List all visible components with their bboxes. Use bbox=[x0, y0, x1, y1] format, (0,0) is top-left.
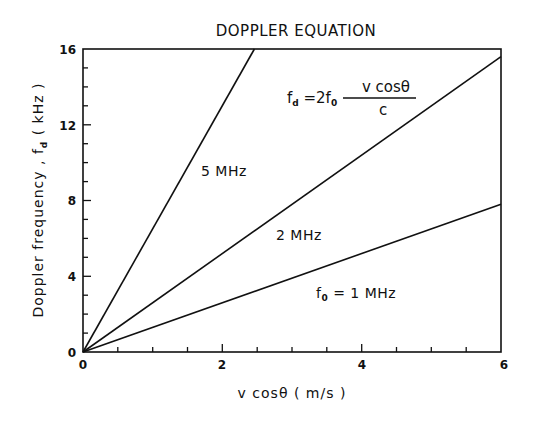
y-axis-title-main: Doppler frequency , f bbox=[30, 148, 46, 317]
label-5mhz: 5 MHz bbox=[201, 163, 247, 179]
x-tick-0: 0 bbox=[79, 358, 87, 372]
equation-numerator: v cosθ bbox=[362, 78, 410, 96]
y-tick-4: 4 bbox=[68, 270, 76, 284]
x-tick-6: 6 bbox=[500, 358, 508, 372]
y-tick-labels: 0 4 8 12 16 bbox=[59, 43, 76, 360]
y-axis-title: Doppler frequency , fd ( kHz ) bbox=[30, 82, 49, 317]
doppler-equation: fd =2f0 v cosθ c bbox=[287, 78, 416, 119]
label-1mhz: f0 = 1 MHz bbox=[316, 285, 396, 303]
equation-denominator: c bbox=[379, 101, 387, 119]
y-axis-ticks bbox=[83, 68, 91, 333]
label-2mhz: 2 MHz bbox=[276, 227, 322, 243]
equation-lhs: fd =2f0 bbox=[287, 89, 337, 108]
x-tick-4: 4 bbox=[358, 358, 366, 372]
x-tick-2: 2 bbox=[218, 358, 226, 372]
y-tick-8: 8 bbox=[68, 194, 76, 208]
x-axis-title: v cosθ ( m/s ) bbox=[238, 385, 347, 401]
doppler-chart: DOPPLER EQUATION 0 4 8 bbox=[0, 0, 536, 423]
svg-text:Doppler frequency , fd ( kHz: Doppler frequency , fd ( kHz ) bbox=[30, 82, 49, 317]
chart-title: DOPPLER EQUATION bbox=[216, 22, 376, 40]
x-tick-labels: 0 2 4 6 bbox=[79, 358, 508, 372]
y-tick-12: 12 bbox=[59, 119, 76, 133]
y-tick-16: 16 bbox=[59, 43, 76, 57]
series-5mhz-line bbox=[83, 49, 254, 352]
y-axis-title-sub: d bbox=[39, 141, 49, 148]
y-axis-title-unit: ( kHz ) bbox=[30, 82, 46, 140]
x-axis-ticks bbox=[118, 344, 466, 352]
y-tick-0: 0 bbox=[68, 346, 76, 360]
